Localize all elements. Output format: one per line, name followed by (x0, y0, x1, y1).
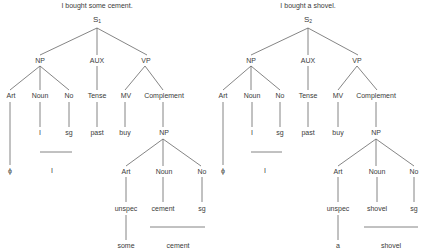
node-complement: Complement (144, 92, 184, 100)
node-np: NP (35, 57, 45, 65)
leaf-tense-value: past (301, 129, 314, 137)
root-node: S1 (93, 16, 101, 25)
node-no: No (65, 92, 74, 100)
node-object-no: No (410, 168, 419, 176)
node-vp: VP (141, 57, 150, 65)
leaf-noun-value: I (251, 129, 253, 137)
node-object-art: Art (334, 168, 343, 176)
surface-object-noun: shovel (381, 242, 401, 250)
node-aux: AUX (90, 57, 104, 65)
leaf-noun-value: I (39, 129, 41, 137)
tree-edges (0, 0, 421, 252)
surface-subject-article: ϕ (8, 167, 12, 175)
leaf-object-noun-value: cement (152, 205, 175, 213)
node-np: NP (246, 57, 256, 65)
node-object-noun: Noun (369, 168, 386, 176)
root-subscript: 2 (309, 18, 312, 24)
root-node: S2 (304, 16, 312, 25)
leaf-object-art-value: unspec (327, 205, 350, 213)
surface-object-noun: cement (167, 242, 190, 250)
leaf-object-no-value: sg (410, 205, 417, 213)
leaf-verb-value: buy (332, 129, 343, 137)
leaf-object-noun-value: shovel (367, 205, 387, 213)
surface-subject-noun: I (264, 167, 266, 175)
leaf-number-value: sg (276, 129, 283, 137)
leaf-tense-value: past (90, 129, 103, 137)
node-art: Art (7, 92, 16, 100)
leaf-verb-value: buy (119, 129, 130, 137)
node-noun: Noun (32, 92, 49, 100)
node-object-no: No (198, 168, 207, 176)
surface-object-article: a (336, 242, 340, 250)
leaf-number-value: sg (65, 129, 72, 137)
node-object-noun: Noun (156, 168, 173, 176)
node-object-art: Art (122, 168, 131, 176)
node-vp: VP (352, 57, 361, 65)
node-tense: Tense (299, 92, 318, 100)
surface-object-article: some (117, 242, 134, 250)
node-art: Art (219, 92, 228, 100)
node-mv: MV (121, 92, 132, 100)
leaf-object-no-value: sg (198, 205, 205, 213)
node-no: No (276, 92, 285, 100)
sentence-title: I bought a shovel. (280, 2, 335, 10)
node-mv: MV (333, 92, 344, 100)
sentence-title: I bought some cement. (61, 2, 132, 10)
node-tense: Tense (88, 92, 107, 100)
root-subscript: 1 (98, 18, 101, 24)
node-object-np: NP (371, 129, 381, 137)
surface-subject-article: ϕ (221, 167, 225, 175)
leaf-object-art-value: unspec (115, 205, 138, 213)
surface-subject-noun: I (51, 167, 53, 175)
node-complement: Complement (356, 92, 396, 100)
node-aux: AUX (301, 57, 315, 65)
node-noun: Noun (244, 92, 261, 100)
node-object-np: NP (159, 129, 169, 137)
